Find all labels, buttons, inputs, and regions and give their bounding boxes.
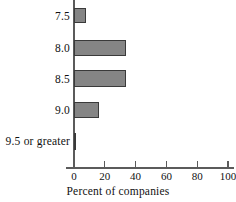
y-axis-label-1: 8.0	[55, 42, 70, 54]
y-axis-label-4: 9.5 or greater	[6, 135, 70, 147]
bar-0	[74, 8, 86, 23]
x-axis-line	[66, 167, 234, 169]
plot-area	[74, 0, 228, 167]
bar-chart: 7.5 8.0 8.5 9.0 9.5 or greater 0 20 40 6…	[0, 0, 236, 202]
x-tick-4	[197, 161, 198, 168]
bar-4	[74, 133, 76, 150]
y-axis-label-2: 8.5	[55, 73, 70, 85]
bar-3	[74, 102, 99, 118]
x-tick-label-2: 40	[121, 170, 151, 182]
x-tick-label-5: 100	[213, 170, 236, 182]
x-tick-label-1: 20	[90, 170, 120, 182]
x-axis-title: Percent of companies	[0, 185, 236, 198]
x-tick-1	[104, 161, 105, 168]
x-tick-0	[73, 161, 74, 168]
x-tick-label-3: 60	[151, 170, 181, 182]
x-tick-5	[227, 161, 228, 168]
x-tick-2	[135, 161, 136, 168]
x-tick-label-0: 0	[59, 170, 89, 182]
bar-2	[74, 70, 126, 87]
bar-1	[74, 40, 126, 56]
y-axis-label-0: 7.5	[55, 10, 70, 22]
x-tick-label-4: 80	[182, 170, 212, 182]
y-axis-label-3: 9.0	[55, 104, 70, 116]
x-tick-3	[166, 161, 167, 168]
